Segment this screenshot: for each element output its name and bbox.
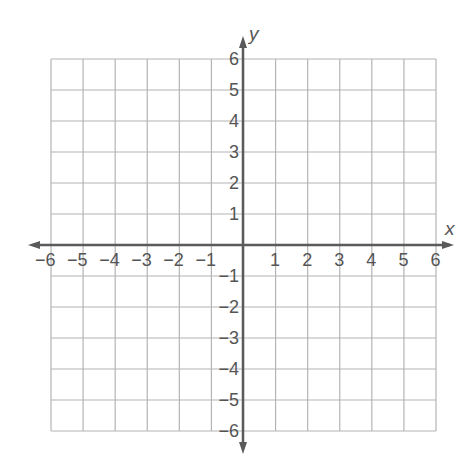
x-tick-label: −2 — [163, 250, 184, 270]
y-tick-label: −2 — [218, 297, 239, 317]
x-tick-label: 3 — [334, 250, 344, 270]
x-tick-label: 4 — [366, 250, 376, 270]
x-axis-right-arrow-icon — [442, 241, 454, 249]
y-tick-label: −4 — [218, 359, 239, 379]
y-tick-label: 6 — [229, 49, 239, 69]
x-tick-label: 2 — [302, 250, 312, 270]
y-tick-label: −6 — [218, 421, 239, 441]
y-tick-label: 3 — [229, 142, 239, 162]
axes — [28, 36, 454, 454]
y-tick-label: −1 — [218, 266, 239, 286]
y-tick-label: −5 — [218, 390, 239, 410]
y-axis-down-arrow-icon — [239, 442, 247, 454]
y-tick-label: 4 — [229, 111, 239, 131]
y-axis-label: y — [247, 23, 260, 44]
x-tick-label: −4 — [99, 250, 120, 270]
y-tick-label: −3 — [218, 328, 239, 348]
y-axis-up-arrow-icon — [239, 36, 247, 48]
x-tick-label: −5 — [67, 250, 88, 270]
x-axis-left-arrow-icon — [28, 241, 40, 249]
coordinate-plane: x y −6−5−4−3−2−1123456 654321−1−2−3−4−5−… — [0, 0, 472, 472]
y-tick-label: 2 — [229, 173, 239, 193]
x-tick-label: 1 — [270, 250, 280, 270]
x-tick-label: 6 — [430, 250, 440, 270]
y-tick-label: 1 — [229, 204, 239, 224]
y-tick-label: 5 — [229, 80, 239, 100]
x-axis-label: x — [444, 218, 456, 239]
x-tick-label: 5 — [398, 250, 408, 270]
x-tick-label: −1 — [195, 250, 216, 270]
x-tick-label: −3 — [131, 250, 152, 270]
x-tick-label: −6 — [35, 250, 56, 270]
